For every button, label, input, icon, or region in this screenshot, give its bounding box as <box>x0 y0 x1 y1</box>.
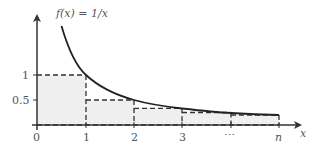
harmonic-series-diagram: f(x) = 1/x 1 0.5 0 1 2 3 ⋯ n x <box>0 0 320 151</box>
x-axis-label: x <box>300 127 307 140</box>
y-tick-label-0.5: 0.5 <box>12 94 30 107</box>
rect-0-1 <box>37 75 86 125</box>
y-tick-label-1: 1 <box>22 69 29 82</box>
rect-dots-n <box>231 115 279 125</box>
x-tick-label-3: 3 <box>179 131 186 144</box>
x-tick-label-0: 0 <box>33 131 40 144</box>
x-tick-label-2: 2 <box>131 131 138 144</box>
rect-2-3 <box>134 108 182 125</box>
x-tick-label-dots: ⋯ <box>224 129 235 142</box>
x-tick-label-n: n <box>275 131 282 144</box>
rect-3-dots <box>182 113 231 126</box>
shaded-rectangles <box>37 75 279 125</box>
x-tick-label-1: 1 <box>83 131 90 144</box>
function-label: f(x) = 1/x <box>55 7 109 20</box>
rect-1-2 <box>86 100 134 125</box>
